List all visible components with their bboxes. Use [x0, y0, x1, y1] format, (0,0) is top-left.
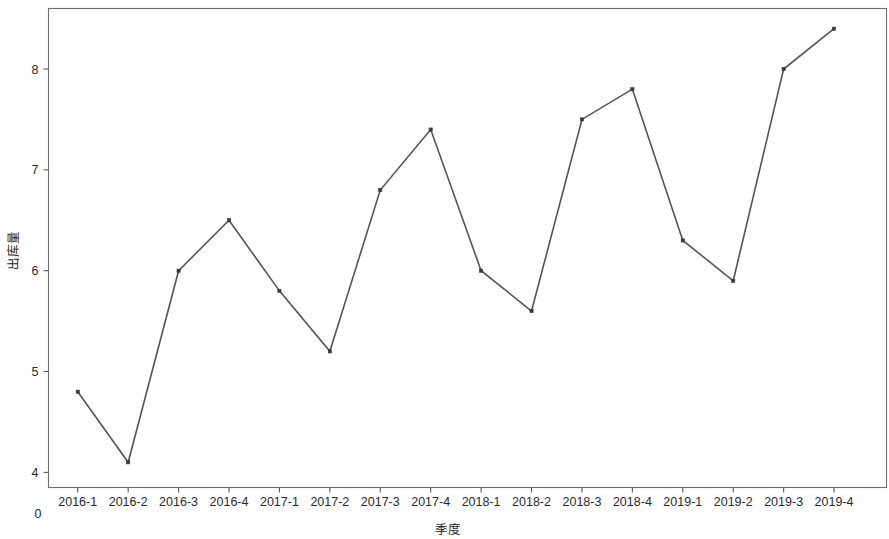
data-point-marker [681, 239, 684, 242]
x-axis-tick-label: 2016-4 [210, 495, 249, 509]
x-axis-tick-label: 2017-1 [260, 495, 299, 509]
x-axis-tick-label: 2018-4 [613, 495, 652, 509]
y-axis-title: 出库量 [6, 231, 21, 270]
data-point-marker [530, 309, 533, 312]
x-axis-tick-label: 2017-4 [411, 495, 450, 509]
data-point-marker [732, 279, 735, 282]
data-point-marker [278, 289, 281, 292]
x-axis-tick-label: 2016-1 [58, 495, 97, 509]
data-point-marker [127, 461, 130, 464]
data-point-marker [328, 350, 331, 353]
data-point-marker [227, 219, 230, 222]
y-axis-tick-label: 8 [32, 63, 39, 77]
x-axis-tick-label: 2016-2 [109, 495, 148, 509]
data-point-marker [76, 390, 79, 393]
data-point-marker [379, 188, 382, 191]
data-point-marker [832, 27, 835, 30]
y-axis-tick-label: 4 [32, 466, 39, 480]
data-point-marker [580, 118, 583, 121]
y-axis-tick-label: 7 [32, 163, 39, 177]
x-axis-tick-label: 2019-4 [815, 495, 854, 509]
y-axis-tick-label: 5 [32, 365, 39, 379]
data-point-marker [782, 67, 785, 70]
x-axis-tick-label: 2017-3 [361, 495, 400, 509]
x-axis-tick-label: 2019-3 [764, 495, 803, 509]
x-axis-title: 季度 [435, 522, 461, 537]
chart-canvas: 45678 2016-12016-22016-32016-42017-12017… [0, 0, 889, 539]
x-axis-tick-label: 2018-3 [562, 495, 601, 509]
x-axis-tick-label: 2019-1 [663, 495, 702, 509]
data-point-marker [480, 269, 483, 272]
data-point-marker [631, 88, 634, 91]
y-axis-tick-label: 6 [32, 264, 39, 278]
data-point-marker [177, 269, 180, 272]
x-axis-tick-label: 2016-3 [159, 495, 198, 509]
x-axis-tick-label: 2019-2 [714, 495, 753, 509]
x-axis-tick-label: 2018-1 [462, 495, 501, 509]
x-axis-origin-label: 0 [35, 507, 42, 521]
line-chart: 45678 2016-12016-22016-32016-42017-12017… [0, 0, 889, 539]
x-axis-tick-label: 2018-2 [512, 495, 551, 509]
plot-area-frame [49, 9, 887, 488]
data-point-marker [429, 128, 432, 131]
x-axis-tick-label: 2017-2 [310, 495, 349, 509]
